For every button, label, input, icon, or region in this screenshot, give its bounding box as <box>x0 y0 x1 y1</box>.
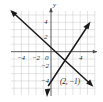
x-tick-label-neg4: −4 <box>17 55 25 62</box>
y-tick-label-pos2: 2 <box>44 34 47 41</box>
y-tick-label-neg2: −2 <box>41 63 49 70</box>
grid-lines <box>11 11 95 95</box>
x-tick-label-pos4: 4 <box>79 55 82 62</box>
coordinate-plane-figure: −4 −2 0 4 4 2 −2 −4 y (2, −1) <box>0 0 103 102</box>
axis-lines <box>11 8 97 96</box>
ascending-line-arrow-end-icon <box>83 22 90 30</box>
y-tick-label-pos4: 4 <box>44 19 47 26</box>
ascending-line-arrow-start-icon <box>45 89 51 97</box>
x-tick-label-neg2: −2 <box>32 55 40 62</box>
y-axis-name-label: y <box>53 2 56 9</box>
intersection-point-label: (2, −1) <box>60 78 80 86</box>
graph-canvas <box>0 0 103 102</box>
y-tick-label-neg4: −4 <box>41 78 49 85</box>
descending-line <box>10 10 93 87</box>
x-tick-label-zero: 0 <box>45 55 48 62</box>
